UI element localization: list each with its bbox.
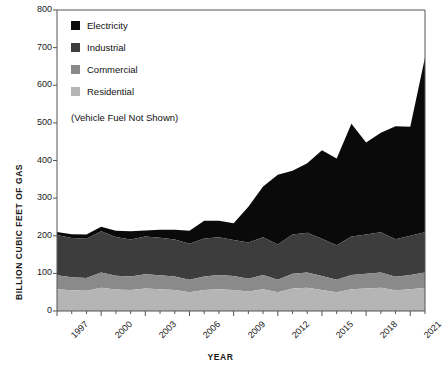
legend-label: Industrial	[87, 42, 126, 53]
legend-swatch-icon	[71, 65, 80, 74]
legend-swatch-icon	[71, 43, 80, 52]
legend-label: Residential	[87, 86, 134, 97]
legend-label: Commercial	[87, 64, 138, 75]
legend-item-residential[interactable]: Residential	[71, 86, 134, 97]
legend-item-industrial[interactable]: Industrial	[71, 42, 126, 53]
legend-swatch-icon	[71, 87, 80, 96]
legend-item-commercial[interactable]: Commercial	[71, 64, 138, 75]
legend-item-electricity[interactable]: Electricity	[71, 20, 128, 31]
legend-swatch-icon	[71, 21, 80, 30]
legend-label: Electricity	[87, 20, 128, 31]
area-series-residential	[57, 288, 425, 311]
legend-note: (Vehicle Fuel Not Shown)	[71, 112, 178, 123]
